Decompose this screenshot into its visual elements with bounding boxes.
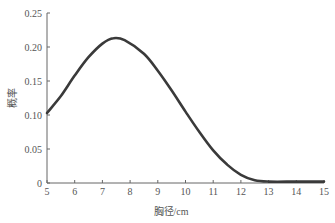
x-tick-label: 13 — [264, 186, 274, 197]
x-tick-label: 14 — [291, 186, 301, 197]
y-tick-label: 0.20 — [25, 42, 43, 53]
y-tick-label: 0.25 — [25, 8, 43, 19]
x-tick-label: 7 — [100, 186, 105, 197]
x-tick-label: 6 — [72, 186, 77, 197]
x-axis-title: 胸径/cm — [154, 205, 189, 217]
y-tick-label: 0.05 — [25, 144, 43, 155]
probability-curve — [47, 38, 324, 182]
y-tick-label: 0 — [37, 178, 42, 189]
x-tick-label: 15 — [319, 186, 329, 197]
x-tick-label: 5 — [45, 186, 50, 197]
y-axis-title: 概率 — [6, 88, 18, 108]
y-axis: 00.050.100.150.200.25 — [25, 8, 51, 189]
line-chart: 00.050.100.150.200.25 56789101112131415 … — [0, 0, 335, 223]
x-tick-label: 12 — [236, 186, 246, 197]
x-tick-label: 9 — [155, 186, 160, 197]
x-tick-label: 11 — [208, 186, 218, 197]
y-tick-label: 0.10 — [25, 110, 43, 121]
y-tick-label: 0.15 — [25, 76, 43, 87]
x-tick-label: 8 — [128, 186, 133, 197]
x-tick-label: 10 — [181, 186, 191, 197]
